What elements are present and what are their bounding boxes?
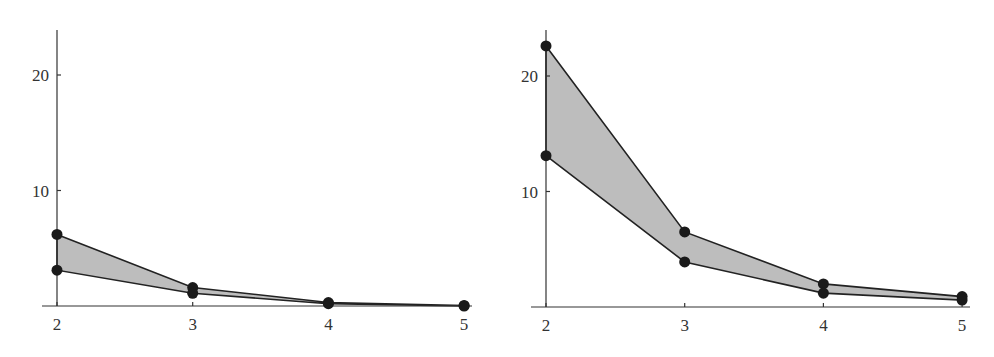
x-tick-label: 3 bbox=[188, 315, 197, 334]
x-tick-label: 4 bbox=[819, 316, 828, 335]
y-tick-label: 20 bbox=[32, 66, 49, 85]
data-point bbox=[818, 288, 829, 299]
data-point bbox=[187, 288, 198, 299]
x-tick-label: 2 bbox=[53, 315, 62, 334]
y-tick-label: 20 bbox=[521, 67, 538, 86]
data-point bbox=[541, 150, 552, 161]
fill-band bbox=[546, 46, 962, 300]
data-point bbox=[323, 298, 334, 309]
x-tick-label: 5 bbox=[460, 315, 469, 334]
data-point bbox=[52, 265, 63, 276]
data-point bbox=[679, 226, 690, 237]
chart-canvas: 2345102023451020 bbox=[0, 0, 994, 357]
x-tick-label: 4 bbox=[324, 315, 333, 334]
data-point bbox=[52, 229, 63, 240]
data-point bbox=[679, 256, 690, 267]
chart-panel-2: 23451020 bbox=[521, 30, 970, 335]
chart-panel-1: 23451020 bbox=[32, 30, 472, 334]
data-point bbox=[957, 295, 968, 306]
data-point bbox=[541, 40, 552, 51]
x-tick-label: 3 bbox=[680, 316, 689, 335]
x-tick-label: 2 bbox=[542, 316, 551, 335]
y-tick-label: 10 bbox=[32, 182, 49, 201]
fill-band bbox=[57, 234, 464, 306]
data-point bbox=[459, 301, 470, 312]
y-tick-label: 10 bbox=[521, 183, 538, 202]
x-tick-label: 5 bbox=[958, 316, 967, 335]
